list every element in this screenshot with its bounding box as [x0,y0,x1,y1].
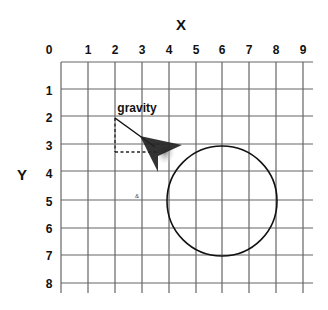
x-tick: 7 [246,44,253,56]
y-tick: 2 [46,112,53,124]
x-tick: 2 [112,44,119,56]
grid-lines [61,62,313,293]
y-tick: 4 [46,168,53,180]
x-tick: 6 [219,44,226,56]
arrowhead-icon [140,136,182,172]
x-tick: 1 [85,44,92,56]
y-tick: 7 [46,250,53,262]
gravity-vector [115,118,182,172]
y-tick: 1 [46,85,53,97]
x-tick: 8 [273,44,280,56]
x-tick: 5 [193,44,200,56]
y-tick: 3 [46,140,53,152]
small-marker: & [135,193,139,199]
x-tick: 4 [166,44,173,56]
x-tick: 9 [300,44,307,56]
x-tick: 0 [46,44,53,56]
x-axis-title: X [176,19,186,31]
x-tick: 3 [139,44,146,56]
y-tick: 5 [46,196,53,208]
y-axis-title: Y [17,169,27,181]
y-tick: 8 [46,278,53,290]
gravity-label: gravity [117,102,156,114]
y-tick: 6 [46,223,53,235]
